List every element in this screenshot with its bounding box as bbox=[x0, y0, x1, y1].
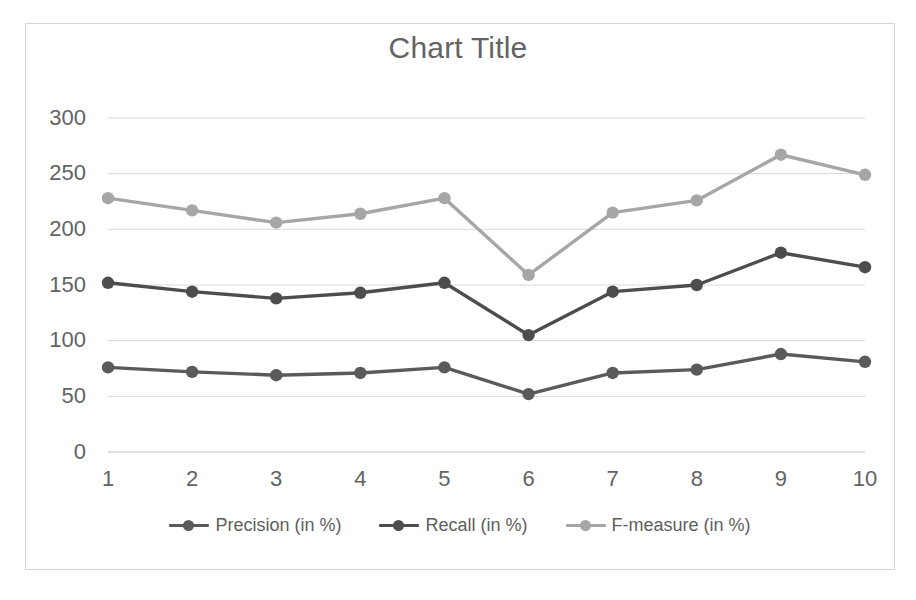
y-axis-tick-label: 50 bbox=[62, 383, 86, 408]
legend-item-3[interactable]: F-measure (in %) bbox=[566, 515, 751, 536]
x-axis-tick-label: 8 bbox=[691, 466, 703, 491]
data-point-marker bbox=[186, 366, 198, 378]
series-line-1 bbox=[108, 354, 865, 394]
data-point-marker bbox=[102, 192, 114, 204]
y-axis-tick-label: 250 bbox=[49, 160, 86, 185]
data-point-marker bbox=[438, 192, 450, 204]
data-point-marker bbox=[270, 216, 282, 228]
x-axis-tick-label: 6 bbox=[522, 466, 534, 491]
series-line-2 bbox=[108, 253, 865, 335]
data-point-marker bbox=[775, 348, 787, 360]
y-axis-tick-label: 0 bbox=[74, 439, 86, 464]
data-point-marker bbox=[775, 149, 787, 161]
data-point-marker bbox=[691, 279, 703, 291]
data-point-marker bbox=[606, 285, 618, 297]
chart-legend: Precision (in %)Recall (in %)F-measure (… bbox=[25, 505, 895, 545]
data-point-marker bbox=[522, 329, 534, 341]
data-point-marker bbox=[102, 361, 114, 373]
data-point-marker bbox=[438, 361, 450, 373]
x-axis-tick-label: 2 bbox=[186, 466, 198, 491]
data-point-marker bbox=[186, 204, 198, 216]
y-axis-tick-label: 200 bbox=[49, 216, 86, 241]
legend-item-2[interactable]: Recall (in %) bbox=[379, 515, 527, 536]
data-point-marker bbox=[270, 369, 282, 381]
x-axis-tick-label: 3 bbox=[270, 466, 282, 491]
data-point-marker bbox=[859, 356, 871, 368]
x-axis-tick-label: 4 bbox=[354, 466, 366, 491]
data-point-marker bbox=[438, 277, 450, 289]
data-point-marker bbox=[775, 247, 787, 259]
legend-marker-icon bbox=[379, 518, 419, 532]
y-axis-ticks-group: 050100150200250300 bbox=[49, 105, 86, 464]
data-series-group bbox=[102, 149, 871, 401]
data-point-marker bbox=[606, 206, 618, 218]
data-point-marker bbox=[859, 169, 871, 181]
data-point-marker bbox=[859, 261, 871, 273]
x-axis-tick-label: 9 bbox=[775, 466, 787, 491]
y-axis-tick-label: 150 bbox=[49, 272, 86, 297]
data-point-marker bbox=[522, 269, 534, 281]
legend-label: F-measure (in %) bbox=[612, 515, 751, 536]
chart-container: Chart Title 050100150200250300 123456789… bbox=[0, 0, 916, 600]
y-axis-tick-label: 300 bbox=[49, 105, 86, 130]
x-axis-tick-label: 1 bbox=[102, 466, 114, 491]
series-line-3 bbox=[108, 155, 865, 275]
legend-label: Recall (in %) bbox=[425, 515, 527, 536]
data-point-marker bbox=[606, 367, 618, 379]
y-axis-tick-label: 100 bbox=[49, 327, 86, 352]
legend-item-1[interactable]: Precision (in %) bbox=[169, 515, 341, 536]
data-point-marker bbox=[102, 277, 114, 289]
data-point-marker bbox=[522, 388, 534, 400]
x-axis-tick-label: 10 bbox=[853, 466, 877, 491]
legend-marker-icon bbox=[169, 518, 209, 532]
x-axis-tick-label: 5 bbox=[438, 466, 450, 491]
data-point-marker bbox=[186, 285, 198, 297]
data-point-marker bbox=[354, 367, 366, 379]
gridlines-group bbox=[108, 118, 865, 452]
data-point-marker bbox=[354, 287, 366, 299]
data-point-marker bbox=[691, 363, 703, 375]
x-axis-ticks-group: 12345678910 bbox=[102, 466, 877, 491]
legend-label: Precision (in %) bbox=[215, 515, 341, 536]
data-point-marker bbox=[354, 208, 366, 220]
legend-marker-icon bbox=[566, 518, 606, 532]
data-point-marker bbox=[270, 292, 282, 304]
data-point-marker bbox=[691, 194, 703, 206]
x-axis-tick-label: 7 bbox=[607, 466, 619, 491]
